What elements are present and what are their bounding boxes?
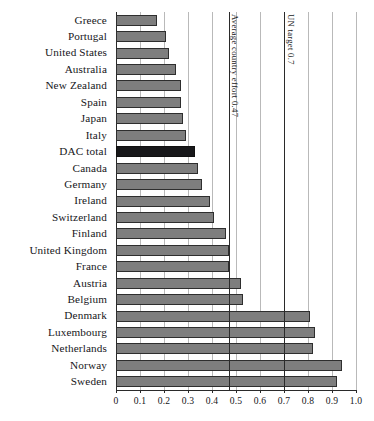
bar [116,163,198,174]
category-label: Luxembourg [0,324,112,340]
axis-tick-label: 0.7 [278,395,291,406]
category-label: Denmark [0,308,112,324]
bar [116,278,241,289]
category-label: Norway [0,357,112,373]
gridline [356,12,357,390]
bar [116,113,183,124]
category-label: Australia [0,61,112,77]
axis-tick-label: 0.9 [326,395,339,406]
bar-row [116,242,356,258]
bar-row [116,193,356,209]
category-label: United States [0,45,112,61]
bar-row [116,209,356,225]
bar [116,80,181,91]
bar-row [116,176,356,192]
bar [116,146,195,157]
category-label: Austria [0,275,112,291]
category-axis-labels: GreecePortugalUnited StatesAustraliaNew … [0,12,112,390]
bar-row [116,127,356,143]
category-label: France [0,259,112,275]
category-label: Switzerland [0,209,112,225]
bar [116,228,226,239]
bar-row [116,61,356,77]
category-label: United Kingdom [0,242,112,258]
bar [116,196,210,207]
bar-row [116,374,356,390]
category-label: Portugal [0,28,112,44]
bar [116,31,166,42]
category-label: Germany [0,176,112,192]
axis-tick [260,390,261,393]
axis-tick-label: 0.8 [302,395,315,406]
axis-tick [332,390,333,393]
bar [116,376,337,387]
bar [116,343,313,354]
bar-row [116,111,356,127]
axis-tick [212,390,213,393]
axis-tick [284,390,285,393]
bar-row [116,78,356,94]
bar [116,15,157,26]
bar [116,179,202,190]
bar-row [116,45,356,61]
axis-tick-label: 0.2 [158,395,171,406]
axis-tick [236,390,237,393]
axis-tick-label: 1.0 [350,395,363,406]
axis-tick-label: 0.6 [254,395,267,406]
bar-row [116,160,356,176]
category-label: Netherlands [0,341,112,357]
category-label: Sweden [0,374,112,390]
axis-tick-label: 0 [114,395,119,406]
bar [116,212,214,223]
axis-tick [188,390,189,393]
axis-tick [140,390,141,393]
category-label: Belgium [0,291,112,307]
bar [116,97,181,108]
bar-series [116,12,356,390]
bar-row [116,144,356,160]
category-label: Finland [0,226,112,242]
axis-tick [356,390,357,393]
bar [116,294,243,305]
value-axis: 00.10.20.30.40.50.60.70.80.91.0 [116,390,356,418]
axis-tick [308,390,309,393]
axis-tick-label: 0.3 [182,395,195,406]
bar [116,311,310,322]
bar-row [116,275,356,291]
bar-row [116,341,356,357]
category-label: New Zealand [0,78,112,94]
bar [116,360,342,371]
category-label: Japan [0,111,112,127]
category-label: Canada [0,160,112,176]
bar-row [116,12,356,28]
category-label: Greece [0,12,112,28]
category-label: Italy [0,127,112,143]
bar-chart: GreecePortugalUnited StatesAustraliaNew … [0,0,374,421]
bar [116,64,176,75]
bar [116,48,169,59]
bar-row [116,28,356,44]
axis-tick [164,390,165,393]
bar [116,245,229,256]
axis-tick [116,390,117,393]
axis-tick-label: 0.4 [206,395,219,406]
bar-row [116,226,356,242]
plot-area: Average country effort 0.47UN target 0.7 [116,12,356,390]
bar [116,130,186,141]
bar-row [116,324,356,340]
bar-row [116,291,356,307]
category-label: Spain [0,94,112,110]
bar-row [116,357,356,373]
bar [116,261,229,272]
category-label: Ireland [0,193,112,209]
category-label: DAC total [0,144,112,160]
axis-tick-label: 0.5 [230,395,243,406]
axis-tick-label: 0.1 [134,395,147,406]
bar [116,327,315,338]
bar-row [116,308,356,324]
bar-row [116,259,356,275]
bar-row [116,94,356,110]
